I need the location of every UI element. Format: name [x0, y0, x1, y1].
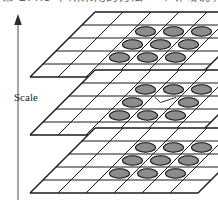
header-text-label: 第 2.4.3 节所采用的方法 一个邻域说明 [2, 0, 218, 3]
neighbourhood-marker [165, 53, 185, 62]
neighbourhood-marker [191, 143, 211, 152]
neighbourhood-marker [137, 53, 157, 62]
neighbourhood-marker [135, 85, 155, 94]
neighbourhood-marker [178, 40, 198, 49]
neighbourhood-marker [109, 111, 129, 120]
neighbourhood-marker [165, 111, 185, 120]
cut-off-header-text: 第 2.4.3 节所采用的方法 一个邻域说明 [0, 0, 218, 9]
neighbourhood-marker [191, 85, 211, 94]
neighbourhood-marker [150, 40, 170, 49]
neighbourhood-marker [122, 98, 142, 107]
neighbourhood-marker [178, 98, 198, 107]
neighbourhood-marker [137, 169, 157, 178]
neighbourhood-marker [163, 85, 183, 94]
neighbourhood-marker [109, 169, 129, 178]
neighbourhood-marker [122, 156, 142, 165]
neighbourhood-marker [191, 27, 211, 36]
neighbourhood-marker [135, 27, 155, 36]
scale-plane-bottom [30, 128, 212, 198]
neighbourhood-marker [109, 53, 129, 62]
neighbourhood-marker [163, 27, 183, 36]
neighbourhood-marker [165, 169, 185, 178]
neighbourhood-marker [150, 156, 170, 165]
figure-canvas: 第 2.4.3 节所采用的方法 一个邻域说明 Scale [0, 0, 218, 205]
neighbourhood-marker [163, 143, 183, 152]
neighbourhood-marker [122, 40, 142, 49]
neighbourhood-marker [137, 111, 157, 120]
neighbourhood-marker [178, 156, 198, 165]
neighbourhood-marker [135, 143, 155, 152]
scale-axis-arrow [12, 14, 24, 200]
